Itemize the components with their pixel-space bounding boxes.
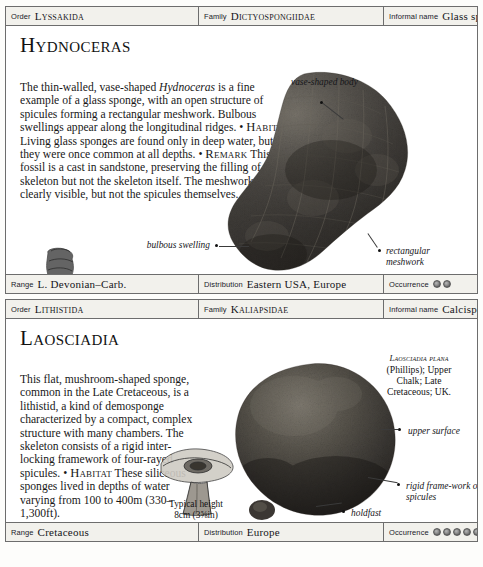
specimen-line4-2: Cretaceous; UK. [387, 386, 451, 397]
occurrence-dot [463, 528, 471, 536]
occurrence-label-1: Occurrence [389, 280, 429, 289]
distribution-value-1: Eastern USA, Europe [247, 278, 347, 290]
occurrence-label-2: Occurrence [389, 528, 429, 537]
distribution-cell-1: Distribution Eastern USA, Europe [199, 275, 384, 293]
remark-label-1: Remark [205, 147, 247, 161]
page-title-hydnoceras: Hydnoceras [20, 33, 477, 58]
range-cell-1: Range L. Devonian–Carb. [6, 275, 199, 293]
taxonomy-header-bar-2: Order Lithistida Family Kaliapsidae Info… [6, 300, 477, 319]
callout-vase-shaped-body: vase-shaped body [291, 77, 361, 88]
range-label-1: Range [11, 280, 34, 289]
leader-line-bulbous-swelling [219, 246, 249, 247]
page-title-laosciadia: Laosciadia [20, 326, 477, 351]
occurrence-dot [453, 528, 461, 536]
callout-rigid-framework: rigid frame-work of spicules [406, 481, 478, 502]
specimen-species-2: Laosciadia plana [389, 353, 448, 363]
family-value-2: Kaliapsidae [231, 303, 289, 315]
range-cell-2: Range Cretaceous [6, 523, 199, 541]
description-text-1: The thin-walled, vase-shaped Hydnoceras … [20, 81, 263, 134]
range-value-2: Cretaceous [38, 526, 89, 538]
occurrence-dot [473, 528, 477, 536]
typical-height-value-2: 8cm (3⅝in) [174, 510, 218, 520]
informal-name-value-1: Glass sponge [442, 10, 477, 22]
order-value-2: Lithistida [35, 303, 84, 315]
specimen-line2-2: (Phillips); Upper [387, 364, 452, 375]
informal-name-label-2: Informal name [389, 305, 438, 314]
distribution-value-2: Europe [247, 526, 280, 538]
range-footer-bar-1: Range L. Devonian–Carb. Distribution Eas… [6, 274, 477, 293]
informal-name-label-1: Informal name [389, 12, 438, 21]
leader-line-holdfast [316, 502, 342, 506]
species-card-laosciadia: Order Lithistida Family Kaliapsidae Info… [5, 299, 478, 542]
typical-height-block-2: Typical height 8cm (3⅝in) [146, 499, 246, 520]
description-paragraph-1: The thin-walled, vase-shaped Hydnoceras … [20, 81, 292, 202]
range-footer-bar-2: Range Cretaceous Distribution Europe Occ… [6, 522, 477, 541]
callout-dot-bulbous-swelling [215, 244, 218, 247]
leader-line-upper-surface [381, 429, 398, 430]
order-label-2: Order [11, 305, 31, 314]
family-label-2: Family [204, 305, 227, 314]
callout-upper-surface: upper surface [408, 426, 478, 437]
occurrence-rating-1 [433, 280, 451, 288]
callout-bulbous-swelling: bulbous swelling [126, 240, 210, 251]
occurrence-rating-2 [433, 528, 477, 536]
card-body-2: Laosciadia This flat, mushroom-shaped sp… [6, 326, 477, 542]
family-cell-2: Family Kaliapsidae [199, 300, 384, 318]
order-cell-1: Order Lyssakida [6, 7, 199, 25]
leader-line-vase-shaped-body [323, 103, 344, 120]
informal-name-cell-2: Informal name Calcisponge [384, 300, 477, 318]
callout-holdfast: holdfast [351, 508, 401, 519]
typical-height-caption-2: Typical height [169, 499, 223, 509]
occurrence-dot [443, 528, 451, 536]
distribution-label-2: Distribution [204, 528, 243, 537]
range-value-1: L. Devonian–Carb. [38, 278, 127, 290]
leader-line-rectangular-meshwork [368, 233, 378, 247]
species-card-hydnoceras: Order Lyssakida Family Dictyospongiidae … [5, 6, 478, 294]
distribution-label-1: Distribution [204, 280, 243, 289]
occurrence-cell-2: Occurrence [384, 523, 477, 541]
callout-dot-holdfast [342, 510, 345, 513]
occurrence-dot [433, 280, 441, 288]
range-label-2: Range [11, 528, 34, 537]
informal-name-value-2: Calcisponge [442, 303, 477, 315]
family-cell-1: Family Dictyospongiidae [199, 7, 384, 25]
family-label-1: Family [204, 12, 227, 21]
leader-line-rigid-framework [368, 477, 398, 483]
order-value-1: Lyssakida [35, 10, 84, 22]
occurrence-dot [443, 280, 451, 288]
callout-dot-rigid-framework [397, 483, 400, 486]
order-cell-2: Order Lithistida [6, 300, 199, 318]
fossil-guide-page: Order Lyssakida Family Dictyospongiidae … [0, 0, 483, 567]
card-body-1: Hydnoceras The thin-walled, vase-shaped … [6, 33, 477, 294]
callout-dot-upper-surface [398, 428, 401, 431]
taxonomy-header-bar-1: Order Lyssakida Family Dictyospongiidae … [6, 7, 477, 26]
occurrence-dot [433, 528, 441, 536]
specimen-line3-2: Chalk; Late [396, 375, 441, 386]
specimen-caption-2: Laosciadia plana (Phillips); Upper Chalk… [354, 352, 478, 397]
occurrence-cell-1: Occurrence [384, 275, 477, 293]
description-text-2: This flat, mushroom-shaped sponge, commo… [20, 373, 192, 480]
callout-rectangular-meshwork: rectangular meshwork [386, 246, 464, 267]
informal-name-cell-1: Informal name Glass sponge [384, 7, 477, 25]
habitat-label-2: Habitat [70, 466, 112, 480]
family-value-1: Dictyospongiidae [231, 10, 315, 22]
order-label-1: Order [11, 12, 31, 21]
callout-dot-rectangular-meshwork [378, 249, 381, 252]
distribution-cell-2: Distribution Europe [199, 523, 384, 541]
habitat-label-1: Habitat [246, 120, 288, 134]
